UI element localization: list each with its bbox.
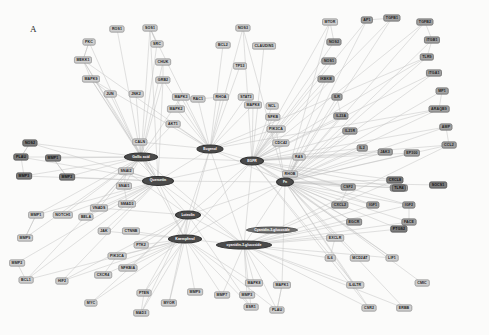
compound-hub-node[interactable]: cyanidin-3-glucoside: [216, 241, 272, 250]
gene-node[interactable]: RAS: [293, 154, 306, 161]
gene-node[interactable]: IGF1: [366, 202, 379, 209]
gene-node[interactable]: NOTCH1: [53, 212, 73, 219]
gene-node[interactable]: NOS3: [235, 25, 250, 32]
gene-node[interactable]: AMP: [439, 124, 452, 131]
gene-node[interactable]: CDC42: [272, 140, 289, 147]
gene-node[interactable]: EP300: [404, 150, 420, 157]
gene-node[interactable]: RAC1: [190, 96, 205, 103]
gene-node[interactable]: CXCR4: [94, 272, 112, 279]
gene-node[interactable]: NFKBIA: [118, 265, 137, 272]
gene-node[interactable]: FACE: [402, 219, 417, 226]
gene-node[interactable]: CALN: [132, 139, 147, 146]
gene-node[interactable]: MMP1: [28, 212, 44, 219]
gene-node[interactable]: ROS1: [109, 26, 124, 33]
gene-node[interactable]: CSR2: [362, 305, 377, 312]
gene-node[interactable]: ESR1: [244, 304, 259, 311]
gene-node[interactable]: ARAQB9: [429, 106, 450, 113]
gene-node[interactable]: PLAU: [269, 307, 284, 314]
compound-hub-node[interactable]: EGFR: [240, 157, 264, 166]
gene-node[interactable]: MTOR: [322, 19, 338, 26]
gene-node[interactable]: PTK2: [134, 242, 149, 249]
gene-node[interactable]: PLAU: [13, 154, 28, 161]
compound-hub-node[interactable]: Cyanidin-3-glucoside: [246, 227, 298, 234]
gene-node[interactable]: BCL1: [19, 277, 34, 284]
gene-node[interactable]: NOS2: [22, 140, 37, 147]
gene-node[interactable]: CHUK: [155, 59, 171, 66]
gene-node[interactable]: SMAD3: [118, 201, 136, 208]
gene-node[interactable]: MYOR: [161, 300, 177, 307]
gene-node[interactable]: MMP1: [45, 155, 61, 162]
gene-node[interactable]: MAPK2: [167, 106, 185, 113]
gene-node[interactable]: PKC: [83, 39, 96, 46]
gene-node[interactable]: MMP3: [16, 173, 32, 180]
gene-node[interactable]: MAD3: [133, 310, 149, 317]
gene-node[interactable]: JNK2: [129, 91, 144, 98]
gene-node[interactable]: IL6LTR: [346, 282, 364, 289]
compound-hub-node[interactable]: Luteolin: [175, 211, 201, 220]
gene-node[interactable]: BCL2: [216, 42, 231, 49]
gene-node[interactable]: MMP7: [214, 292, 230, 299]
gene-node[interactable]: CXCL2: [331, 202, 348, 209]
gene-node[interactable]: CSF2: [341, 184, 356, 191]
gene-node[interactable]: CLAUDIN5: [252, 43, 276, 50]
gene-node[interactable]: IL6: [325, 255, 336, 262]
gene-node[interactable]: MMP2: [59, 174, 75, 181]
gene-node[interactable]: SNAI1: [116, 183, 132, 190]
compound-hub-node[interactable]: Gallic acid: [124, 153, 158, 162]
gene-node[interactable]: JUN: [104, 91, 117, 98]
gene-node[interactable]: SOS1: [143, 25, 158, 32]
gene-node[interactable]: ERBB: [396, 305, 412, 312]
gene-node[interactable]: JAK3: [378, 149, 393, 156]
gene-node[interactable]: BELA: [78, 214, 93, 221]
compound-hub-node[interactable]: Eugenol: [197, 145, 224, 154]
gene-node[interactable]: AKT1: [166, 121, 181, 128]
gene-node[interactable]: NFKB: [265, 114, 280, 121]
gene-node[interactable]: TGFB1: [383, 15, 400, 22]
gene-node[interactable]: LIF1: [386, 255, 399, 262]
gene-node[interactable]: TGFB2: [416, 19, 433, 26]
gene-node[interactable]: RHOB: [282, 171, 298, 178]
compound-hub-node[interactable]: Fn: [276, 178, 294, 187]
gene-node[interactable]: NOS1: [321, 58, 336, 65]
gene-node[interactable]: RHOA: [213, 94, 229, 101]
gene-node[interactable]: HIF2: [55, 278, 68, 285]
gene-node[interactable]: CCL2: [442, 142, 457, 149]
gene-node[interactable]: IL21R: [342, 128, 357, 135]
gene-node[interactable]: MAPK3: [172, 94, 190, 101]
gene-node[interactable]: MAPK8: [244, 102, 262, 109]
gene-node[interactable]: CTNNB: [122, 228, 140, 235]
gene-node[interactable]: JAK: [98, 228, 111, 235]
gene-node[interactable]: AP1: [361, 17, 373, 24]
gene-node[interactable]: PIK3CA: [108, 253, 127, 260]
gene-node[interactable]: EGCR: [346, 219, 362, 226]
gene-node[interactable]: MAPK8: [245, 280, 263, 287]
gene-node[interactable]: PIK3CA: [267, 126, 286, 133]
gene-node[interactable]: TP53: [233, 63, 247, 70]
gene-node[interactable]: NOS2: [326, 39, 341, 46]
gene-node[interactable]: SRC: [151, 41, 164, 48]
gene-node[interactable]: ILR: [331, 94, 342, 101]
gene-node[interactable]: CXCL8: [386, 177, 403, 184]
gene-node[interactable]: GRB2: [155, 77, 170, 84]
gene-node[interactable]: STAT3: [238, 94, 254, 101]
gene-node[interactable]: MEKK1: [74, 57, 92, 64]
gene-node[interactable]: VNADS: [90, 205, 108, 212]
gene-node[interactable]: MMP9: [187, 289, 203, 296]
gene-node[interactable]: MCD2AT: [350, 255, 370, 262]
gene-node[interactable]: MAPK9: [82, 76, 100, 83]
gene-node[interactable]: SNAI2: [118, 168, 134, 175]
gene-node[interactable]: CMIC: [415, 280, 430, 287]
gene-node[interactable]: TLR9: [420, 54, 434, 61]
compound-hub-node[interactable]: Kaempferol: [168, 235, 202, 244]
gene-node[interactable]: NCL: [266, 103, 279, 110]
gene-node[interactable]: MMP3: [239, 292, 255, 299]
gene-node[interactable]: MMP2: [9, 260, 25, 267]
gene-node[interactable]: SOCS1: [429, 182, 447, 189]
gene-node[interactable]: EXCLR: [326, 235, 344, 242]
gene-node[interactable]: TLR4: [392, 185, 406, 192]
gene-node[interactable]: IL2: [357, 145, 368, 152]
gene-node[interactable]: ITGA1: [426, 70, 442, 77]
gene-node[interactable]: MYC: [84, 300, 97, 307]
gene-node[interactable]: MAPK1: [273, 282, 291, 289]
gene-node[interactable]: MP1: [436, 88, 449, 95]
